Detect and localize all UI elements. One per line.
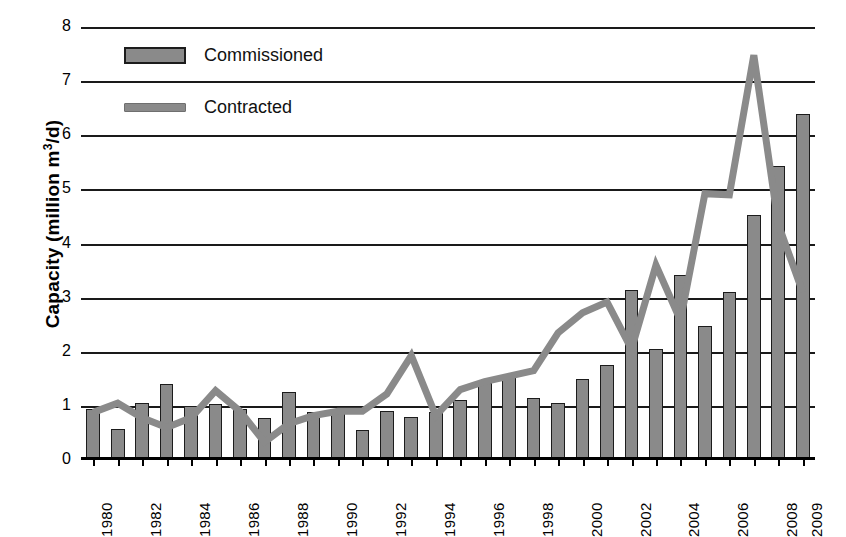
x-tick-2004 xyxy=(680,460,682,466)
x-tick-1995 xyxy=(460,460,462,466)
x-tick-1991 xyxy=(362,460,364,466)
x-tick-label-1996: 1996 xyxy=(491,502,506,537)
x-tick-1988 xyxy=(289,460,291,466)
x-tick-1996 xyxy=(485,460,487,466)
x-tick-1984 xyxy=(191,460,193,466)
x-tick-1999 xyxy=(558,460,560,466)
x-tick-2008 xyxy=(778,460,780,466)
y-tick-label-8: 8 xyxy=(45,18,71,34)
x-tick-label-1982: 1982 xyxy=(148,502,163,537)
legend-label-commissioned: Commissioned xyxy=(204,46,323,64)
x-tick-2003 xyxy=(656,460,658,466)
x-tick-label-1998: 1998 xyxy=(540,502,555,537)
x-tick-2000 xyxy=(583,460,585,466)
y-axis-title-superscript: 3 xyxy=(41,143,55,150)
y-tick-label-6: 6 xyxy=(45,126,71,142)
y-tick-label-5: 5 xyxy=(45,180,71,196)
x-tick-1985 xyxy=(216,460,218,466)
x-tick-label-1986: 1986 xyxy=(246,502,261,537)
x-tick-2007 xyxy=(754,460,756,466)
x-tick-label-1994: 1994 xyxy=(442,502,457,537)
x-tick-1993 xyxy=(411,460,413,466)
legend-item-commissioned[interactable]: Commissioned xyxy=(124,40,384,70)
y-tick-label-2: 2 xyxy=(45,343,71,359)
x-tick-label-1980: 1980 xyxy=(99,502,114,537)
legend-line-swatch-icon xyxy=(124,103,186,112)
x-tick-1981 xyxy=(118,460,120,466)
x-tick-2005 xyxy=(705,460,707,466)
chart-legend: Commissioned Contracted xyxy=(124,40,384,144)
legend-label-contracted: Contracted xyxy=(204,98,292,116)
x-tick-label-1992: 1992 xyxy=(393,502,408,537)
legend-item-contracted[interactable]: Contracted xyxy=(124,92,384,122)
x-tick-2002 xyxy=(632,460,634,466)
x-tick-1987 xyxy=(265,460,267,466)
x-tick-2006 xyxy=(729,460,731,466)
x-tick-1994 xyxy=(436,460,438,466)
legend-bar-swatch-icon xyxy=(124,47,186,64)
x-tick-label-1988: 1988 xyxy=(295,502,310,537)
x-tick-label-1984: 1984 xyxy=(197,502,212,537)
x-tick-label-2000: 2000 xyxy=(589,502,604,537)
x-tick-1998 xyxy=(534,460,536,466)
x-tick-1986 xyxy=(240,460,242,466)
x-tick-1989 xyxy=(313,460,315,466)
x-tick-label-2006: 2006 xyxy=(735,502,750,537)
x-tick-label-2009: 2009 xyxy=(809,502,824,537)
y-tick-label-3: 3 xyxy=(45,289,71,305)
y-tick-label-1: 1 xyxy=(45,397,71,413)
x-tick-2001 xyxy=(607,460,609,466)
x-tick-label-2008: 2008 xyxy=(784,502,799,537)
x-tick-label-2004: 2004 xyxy=(686,502,701,537)
y-tick-label-7: 7 xyxy=(45,72,71,88)
x-tick-label-2002: 2002 xyxy=(638,502,653,537)
x-tick-1980 xyxy=(93,460,95,466)
x-tick-1990 xyxy=(338,460,340,466)
y-tick-label-0: 0 xyxy=(45,451,71,467)
x-tick-1983 xyxy=(167,460,169,466)
x-tick-1997 xyxy=(509,460,511,466)
x-tick-1992 xyxy=(387,460,389,466)
y-tick-label-4: 4 xyxy=(45,235,71,251)
x-tick-1982 xyxy=(142,460,144,466)
x-tick-label-1990: 1990 xyxy=(344,502,359,537)
x-tick-2009 xyxy=(803,460,805,466)
